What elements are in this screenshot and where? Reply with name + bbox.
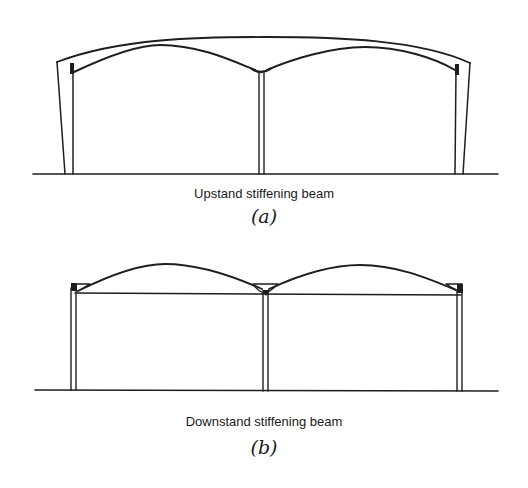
inner-column-right (455, 70, 456, 174)
figure-b-drawing (35, 264, 498, 391)
figure-a-caption: Upstand stiffening beam (0, 186, 528, 201)
outer-leg-left (57, 62, 65, 174)
shell-arc-b-left (78, 264, 262, 291)
outer-leg-right (463, 63, 470, 174)
shell-arc-b-right (269, 265, 456, 290)
center-valley-a (252, 69, 270, 72)
figure-b-label: (b) (0, 436, 528, 458)
figure-a-drawing (33, 37, 498, 174)
edge-block-right (455, 64, 459, 75)
bracket-right-block (457, 284, 463, 293)
figure-b-caption: Downstand stiffening beam (0, 414, 528, 429)
shell-arc-a-right (267, 47, 455, 70)
figure-a-label: (a) (0, 205, 528, 227)
edge-block-left (70, 63, 74, 74)
upstand-beam-outer-arc (57, 37, 470, 63)
bracket-left-block (71, 283, 77, 291)
ground-line-b (35, 390, 498, 391)
